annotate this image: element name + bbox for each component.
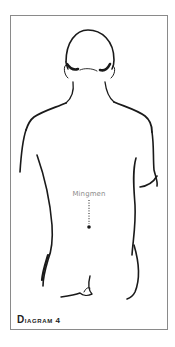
neck-left: [66, 82, 73, 103]
mingmen-pointer: [87, 200, 91, 229]
torso-back-illustration: [0, 0, 175, 347]
right-elbow: [140, 176, 157, 187]
point-label-mingmen: Mingmen: [72, 190, 106, 198]
torso-right-side: [132, 158, 136, 255]
right-shoulder: [114, 102, 152, 132]
left-hip: [42, 255, 48, 280]
caption-initial: D: [17, 314, 25, 325]
gluteal-cleft: [61, 276, 92, 297]
mingmen-point: [87, 225, 91, 229]
left-arm: [20, 130, 26, 172]
left-shoulder: [26, 103, 66, 130]
head-outline: [66, 30, 114, 69]
caption-text: iagram 4: [25, 316, 61, 325]
hair-shading: [67, 64, 110, 70]
neck-right: [105, 82, 114, 102]
diagram-caption: Diagram 4: [17, 314, 61, 325]
